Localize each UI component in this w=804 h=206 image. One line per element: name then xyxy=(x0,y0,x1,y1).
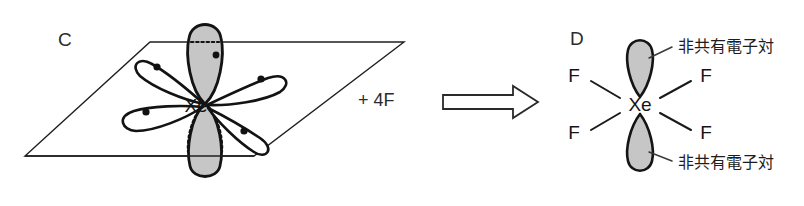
bond-xe-fluorine-lower-right xyxy=(660,113,691,130)
electron-dot-axial-top xyxy=(213,52,220,59)
panel-c-label: C xyxy=(58,29,72,50)
axial-lobe-top-shape xyxy=(188,25,223,105)
panel-d-label: D xyxy=(570,28,584,49)
lone-pair-top-label: 非共有電子対 xyxy=(678,37,774,56)
chemistry-figure-canvas: C xyxy=(0,0,804,206)
fluorine-upper-left-label: F xyxy=(568,65,580,86)
fluorine-upper-right-label: F xyxy=(700,65,712,86)
reaction-group: + 4F xyxy=(358,86,538,118)
figure-root: C xyxy=(0,0,804,206)
electron-dot-lower-left xyxy=(142,108,149,115)
lone-pair-lobe-top xyxy=(627,40,653,97)
fluorine-lower-left-label: F xyxy=(568,122,580,143)
bond-xe-fluorine-upper-left xyxy=(591,81,620,98)
electron-dot-upper-left xyxy=(153,63,160,70)
fluorine-lower-right-label: F xyxy=(700,122,712,143)
bond-xe-fluorine-upper-right xyxy=(660,81,691,98)
panel-c: C xyxy=(25,25,404,177)
panel-d: D Xe F F F F 非共有電子対 非共有電子対 xyxy=(568,28,774,172)
electron-dot-lower-right xyxy=(240,127,247,134)
reaction-arrow xyxy=(443,86,538,118)
lone-pair-bottom-label: 非共有電子対 xyxy=(678,153,774,172)
lone-pair-lobe-bottom xyxy=(627,114,653,171)
panel-d-center-atom-label: Xe xyxy=(628,94,651,115)
reagent-label: + 4F xyxy=(358,90,395,110)
electron-dot-upper-right xyxy=(257,75,264,82)
bond-xe-fluorine-lower-left xyxy=(591,113,620,130)
panel-c-center-atom-label: Xe xyxy=(184,95,207,116)
axial-lobe-top xyxy=(188,25,223,105)
